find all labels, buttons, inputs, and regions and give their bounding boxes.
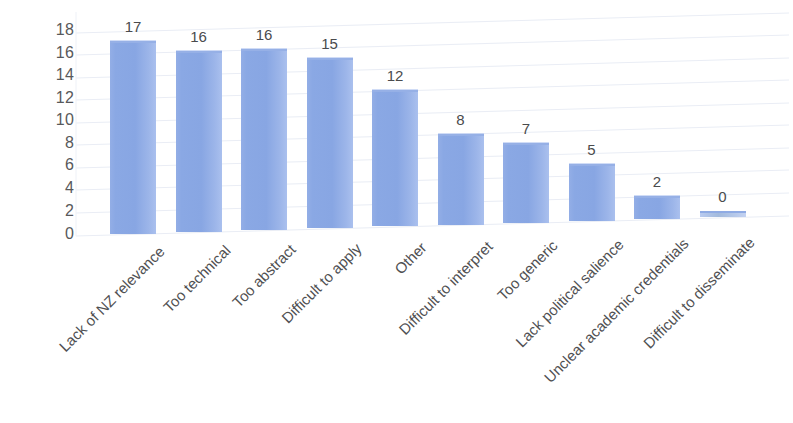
bar-value-label: 8 bbox=[456, 112, 464, 127]
bar-value-label: 17 bbox=[125, 19, 142, 34]
x-axis-category-text: Lack political salience bbox=[512, 236, 625, 349]
x-axis-category-text: Too abstract bbox=[230, 241, 298, 309]
bar-value-label: 7 bbox=[522, 121, 530, 136]
bar-value-label: 12 bbox=[387, 68, 404, 83]
bar bbox=[438, 134, 484, 225]
bar bbox=[110, 41, 156, 234]
bar-value-label: 2 bbox=[653, 174, 661, 189]
x-axis-labels: Lack of NZ relevanceToo technicalToo abs… bbox=[0, 240, 793, 423]
bar-column: 17 bbox=[110, 1, 156, 234]
x-axis-category-text: Difficult to disseminate bbox=[640, 234, 757, 351]
x-axis-category-text: Too technical bbox=[160, 242, 233, 315]
x-axis-category-text: Other bbox=[392, 239, 429, 276]
bar-value-label: 15 bbox=[321, 36, 338, 51]
bar-value-label: 16 bbox=[256, 27, 273, 42]
x-axis-category-text: Lack of NZ relevance bbox=[56, 243, 167, 354]
bar-column: 8 bbox=[438, 94, 484, 225]
x-axis-category-text: Too generic bbox=[495, 237, 560, 302]
bar-value-label: 5 bbox=[587, 142, 595, 157]
bar-value-label: 16 bbox=[190, 29, 207, 44]
bar-chart: 18 16 14 12 10 8 6 4 2 0 171616151287520… bbox=[0, 0, 793, 423]
